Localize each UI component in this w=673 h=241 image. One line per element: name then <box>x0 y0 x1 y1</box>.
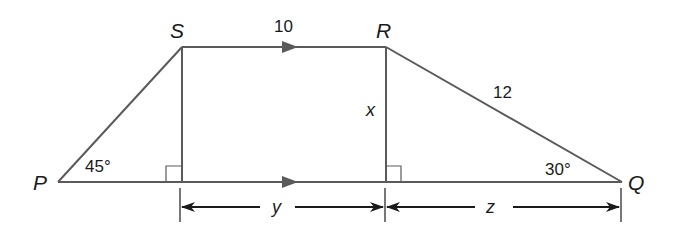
dimension-label-z: z <box>485 197 495 217</box>
vertex-label-s: S <box>170 19 184 42</box>
angle-label-p: 45° <box>85 157 111 176</box>
angle-label-q: 30° <box>545 160 571 179</box>
side-rq <box>386 47 622 182</box>
dimension-label-y: y <box>270 197 282 217</box>
altitude-label-x: x <box>365 100 376 120</box>
parallel-mark-top-icon <box>282 41 298 53</box>
right-angle-mark-r-icon <box>386 166 401 182</box>
right-angle-mark-s-icon <box>166 166 182 182</box>
vertex-label-q: Q <box>628 171 644 194</box>
side-label-rq: 12 <box>493 83 512 102</box>
vertex-label-p: P <box>33 171 47 194</box>
parallel-mark-bottom-icon <box>282 176 298 188</box>
trapezoid-diagram: P S R Q 10 12 x 45° 30° y z <box>0 0 673 241</box>
side-ps <box>58 47 182 182</box>
vertex-label-r: R <box>376 19 391 42</box>
side-label-sr: 10 <box>274 17 293 36</box>
